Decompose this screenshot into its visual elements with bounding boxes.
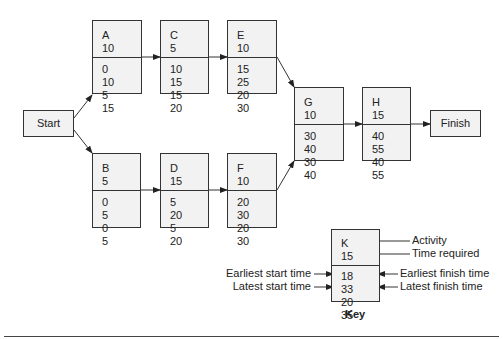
- key-label-earliest-start: Earliest start time: [226, 267, 311, 279]
- activity-node-h: H15 40554055: [362, 87, 411, 161]
- activity-time: 15: [170, 175, 182, 188]
- activity-id: A: [102, 29, 114, 42]
- activity-id: G: [304, 96, 316, 109]
- activity-node-c: C5 10151520: [160, 20, 209, 94]
- latest-finish: 30: [237, 235, 259, 248]
- latest-finish: 15: [102, 102, 124, 115]
- divider: [228, 190, 276, 191]
- divider: [161, 57, 208, 58]
- divider: [93, 57, 141, 58]
- finish-node: Finish: [430, 110, 481, 137]
- earliest-start: 40: [372, 130, 394, 143]
- activity-time: 5: [170, 42, 178, 55]
- latest-start: 15: [170, 89, 192, 102]
- activity-id: F: [237, 162, 249, 175]
- activity-time: 10: [237, 175, 249, 188]
- earliest-start: 15: [237, 63, 259, 76]
- activity-id: B: [102, 162, 109, 175]
- earliest-start: 0: [102, 63, 124, 76]
- key-activity-id: K: [341, 237, 353, 250]
- key-earliest-start: 18: [341, 270, 363, 283]
- bottom-rule: [4, 336, 499, 337]
- divider: [363, 124, 410, 125]
- earliest-finish: 20: [170, 209, 192, 222]
- divider: [161, 190, 208, 191]
- earliest-start: 30: [304, 130, 326, 143]
- latest-finish: 30: [237, 102, 259, 115]
- divider: [228, 57, 276, 58]
- key-label-earliest-finish: Earliest finish time: [400, 267, 489, 279]
- earliest-finish: 5: [102, 209, 124, 222]
- latest-finish: 20: [170, 235, 192, 248]
- divider: [332, 265, 379, 266]
- earliest-finish: 15: [170, 76, 192, 89]
- activity-time: 10: [237, 42, 249, 55]
- divider: [295, 124, 343, 125]
- key-label-latest-finish: Latest finish time: [400, 280, 483, 292]
- latest-start: 40: [372, 156, 394, 169]
- key-label-time-required: Time required: [412, 247, 479, 259]
- latest-finish: 40: [304, 169, 326, 182]
- latest-finish: 20: [170, 102, 192, 115]
- activity-time: 10: [102, 42, 114, 55]
- activity-id: E: [237, 29, 249, 42]
- activity-node-b: B5 0505: [92, 153, 141, 228]
- key-activity-time: 15: [341, 250, 353, 263]
- latest-start: 20: [237, 222, 259, 235]
- earliest-finish: 30: [237, 209, 259, 222]
- earliest-finish: 40: [304, 143, 326, 156]
- earliest-start: 0: [102, 196, 124, 209]
- activity-node-e: E10 15252030: [227, 20, 277, 94]
- activity-node-g: G10 30403040: [294, 87, 344, 161]
- earliest-start: 5: [170, 196, 192, 209]
- earliest-finish: 25: [237, 76, 259, 89]
- key-earliest-finish: 33: [341, 283, 363, 296]
- key-example-node: K15 18332035: [331, 229, 380, 302]
- earliest-finish: 55: [372, 143, 394, 156]
- activity-time: 5: [102, 175, 109, 188]
- latest-finish: 5: [102, 235, 124, 248]
- latest-start: 5: [170, 222, 192, 235]
- key-title: Key: [345, 308, 365, 320]
- start-node: Start: [23, 110, 74, 137]
- activity-node-f: F10 20302030: [227, 153, 277, 228]
- latest-start: 0: [102, 222, 124, 235]
- earliest-start: 20: [237, 196, 259, 209]
- latest-finish: 55: [372, 169, 394, 182]
- activity-id: H: [372, 96, 384, 109]
- key-label-activity: Activity: [412, 234, 447, 246]
- divider: [93, 190, 140, 191]
- activity-id: C: [170, 29, 178, 42]
- activity-node-a: A10 010515: [92, 20, 142, 94]
- earliest-finish: 10: [102, 76, 124, 89]
- activity-node-d: D15 520520: [160, 153, 209, 228]
- latest-start: 5: [102, 89, 124, 102]
- activity-id: D: [170, 162, 182, 175]
- earliest-start: 10: [170, 63, 192, 76]
- activity-time: 10: [304, 109, 316, 122]
- latest-start: 30: [304, 156, 326, 169]
- key-label-latest-start: Latest start time: [233, 280, 311, 292]
- activity-time: 15: [372, 109, 384, 122]
- latest-start: 20: [237, 89, 259, 102]
